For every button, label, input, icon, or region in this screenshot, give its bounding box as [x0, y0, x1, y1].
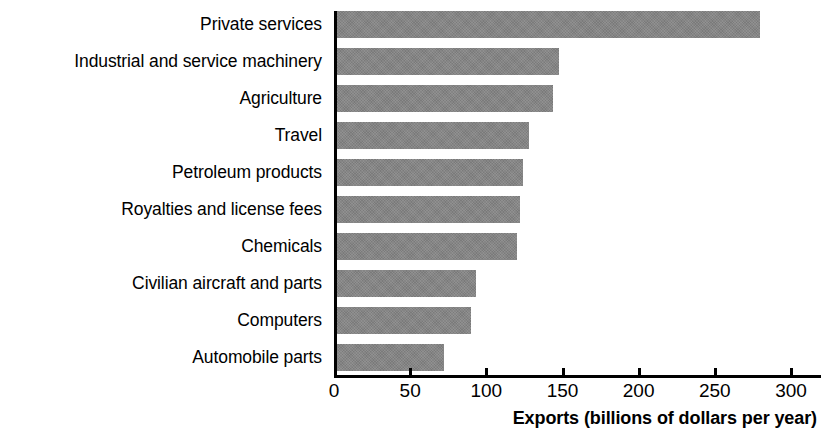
category-label: Automobile parts [192, 348, 328, 367]
x-axis-tick [714, 368, 717, 375]
category-label-row: Chemicals [0, 233, 328, 260]
bar [337, 122, 529, 149]
bar [337, 233, 517, 260]
x-axis-tick-label: 300 [775, 380, 807, 402]
bar [337, 270, 476, 297]
category-label: Petroleum products [172, 163, 328, 182]
category-label-row: Civilian aircraft and parts [0, 270, 328, 297]
x-axis-tick [790, 368, 793, 375]
category-label: Industrial and service machinery [74, 52, 328, 71]
category-label-row: Royalties and license fees [0, 196, 328, 223]
bar [337, 11, 760, 38]
category-label: Agriculture [239, 89, 328, 108]
bar-row [337, 196, 760, 223]
x-axis-line [334, 375, 821, 378]
bar [337, 196, 520, 223]
category-label-row: Private services [0, 11, 328, 38]
x-axis-tick-label: 200 [623, 380, 655, 402]
bar-row [337, 233, 760, 260]
bar [337, 344, 444, 371]
bar-series [337, 11, 760, 381]
bar [337, 85, 553, 112]
category-label-row: Petroleum products [0, 159, 328, 186]
category-label: Civilian aircraft and parts [132, 274, 328, 293]
bar-row [337, 122, 760, 149]
category-label-row: Automobile parts [0, 344, 328, 371]
bar-row [337, 159, 760, 186]
category-label: Travel [275, 126, 328, 145]
x-axis-tick [485, 368, 488, 375]
x-axis-tick [409, 368, 412, 375]
bar [337, 307, 471, 334]
category-label: Computers [237, 311, 328, 330]
x-axis-tick-label: 150 [547, 380, 579, 402]
bar [337, 159, 523, 186]
x-axis-title: Exports (billions of dollars per year) [0, 408, 817, 429]
x-axis-tick [638, 368, 641, 375]
category-axis-labels: Private services Industrial and service … [0, 11, 328, 381]
bar-row [337, 11, 760, 38]
plot-area [334, 11, 821, 375]
category-label: Chemicals [241, 237, 328, 256]
category-label-row: Agriculture [0, 85, 328, 112]
x-axis-tick-label: 0 [329, 380, 340, 402]
bar-row [337, 270, 760, 297]
x-axis-tick-label: 250 [699, 380, 731, 402]
bar [337, 48, 559, 75]
category-label: Private services [200, 15, 328, 34]
horizontal-bar-chart: Private services Industrial and service … [0, 0, 821, 439]
bar-row [337, 344, 760, 371]
category-label: Royalties and license fees [121, 200, 328, 219]
category-label-row: Travel [0, 122, 328, 149]
bar-row [337, 307, 760, 334]
x-axis-tick-label: 50 [400, 380, 421, 402]
bar-row [337, 85, 760, 112]
bar-row [337, 48, 760, 75]
category-label-row: Computers [0, 307, 328, 334]
x-axis-tick-label: 100 [470, 380, 502, 402]
x-axis-tick [562, 368, 565, 375]
category-label-row: Industrial and service machinery [0, 48, 328, 75]
